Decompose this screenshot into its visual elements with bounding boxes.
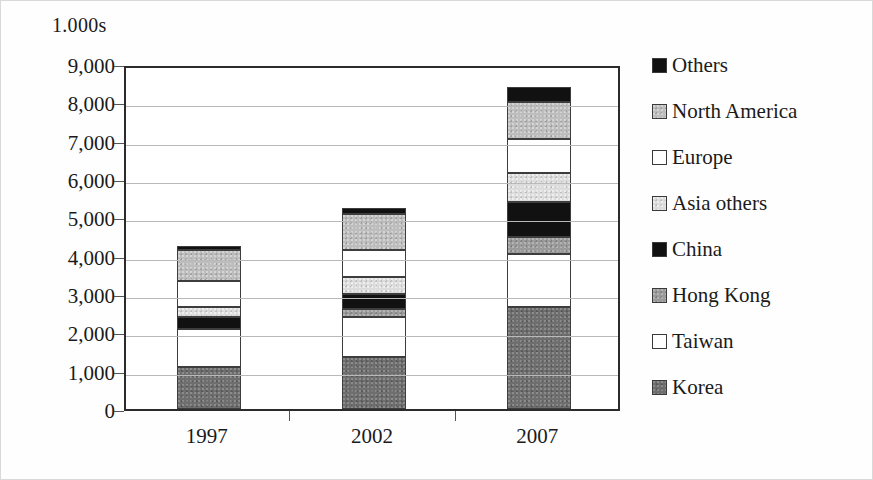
legend-swatch-icon — [652, 334, 667, 349]
x-axis-tick — [289, 411, 290, 421]
legend-label: Asia others — [672, 193, 767, 214]
bar-segment-korea — [177, 367, 241, 409]
y-axis-tick — [114, 411, 124, 412]
legend-swatch-icon — [652, 58, 667, 73]
legend-item-china[interactable]: China — [652, 226, 867, 272]
legend-label: Europe — [672, 147, 733, 168]
bar-group — [126, 68, 618, 409]
y-axis-tick-label: 4,000 — [68, 245, 115, 270]
legend-label: Korea — [672, 377, 723, 398]
bar-segment-north-america — [342, 214, 406, 250]
legend-swatch-icon — [652, 242, 667, 257]
bar-segment-europe — [177, 281, 241, 308]
y-axis-tick — [114, 104, 124, 105]
y-axis-tick-label: 8,000 — [68, 92, 115, 117]
bar-segment-hong-kong — [507, 237, 571, 254]
bar-2007 — [507, 64, 571, 409]
bar-segment-korea — [507, 307, 571, 409]
legend-item-others[interactable]: Others — [652, 42, 867, 88]
legend-label: Taiwan — [672, 331, 734, 352]
bar-segment-asia-others — [177, 307, 241, 317]
legend-swatch-icon — [652, 380, 667, 395]
y-axis-tick — [114, 219, 124, 220]
gridline — [126, 183, 618, 184]
y-axis: 9,0008,0007,0006,0005,0004,0003,0002,000… — [0, 0, 124, 480]
bar-segment-taiwan — [507, 254, 571, 308]
x-axis-tick-label: 2002 — [351, 424, 393, 449]
legend-label: Hong Kong — [672, 285, 771, 306]
y-axis-tick — [114, 373, 124, 374]
bar-segment-china — [342, 294, 406, 309]
plot-area — [124, 66, 620, 411]
y-axis-tick — [114, 296, 124, 297]
gridline — [126, 145, 618, 146]
y-axis-tick — [114, 334, 124, 335]
y-axis-tick-label: 3,000 — [68, 284, 115, 309]
x-axis-tick-label: 1997 — [186, 424, 228, 449]
legend-label: China — [672, 239, 722, 260]
gridline — [126, 298, 618, 299]
y-axis-tick-label: 9,000 — [68, 54, 115, 79]
y-axis-tick-label: 1,000 — [68, 360, 115, 385]
gridline — [126, 106, 618, 107]
bar-2002 — [342, 64, 406, 409]
gridline — [126, 260, 618, 261]
bar-segment-china — [177, 317, 241, 329]
y-axis-tick — [114, 258, 124, 259]
bar-segment-china — [507, 202, 571, 237]
x-axis-tick-label: 2007 — [516, 424, 558, 449]
bar-segment-korea — [342, 357, 406, 409]
legend-swatch-icon — [652, 104, 667, 119]
bar-segment-others — [177, 246, 241, 250]
y-axis-tick-label: 5,000 — [68, 207, 115, 232]
legend-label: North America — [672, 101, 797, 122]
gridline — [126, 336, 618, 337]
legend-item-hong-kong[interactable]: Hong Kong — [652, 272, 867, 318]
bar-1997 — [177, 64, 241, 409]
bar-segment-hong-kong — [342, 309, 406, 317]
x-axis-tick — [455, 411, 456, 421]
bar-segment-asia-others — [507, 173, 571, 202]
y-axis-tick-label: 6,000 — [68, 169, 115, 194]
legend-item-taiwan[interactable]: Taiwan — [652, 318, 867, 364]
y-axis-tick-label: 2,000 — [68, 322, 115, 347]
bar-segment-taiwan — [177, 329, 241, 367]
stacked-bar-chart: 1.000s 9,0008,0007,0006,0005,0004,0003,0… — [0, 0, 873, 480]
bar-segment-europe — [342, 250, 406, 277]
legend-item-korea[interactable]: Korea — [652, 364, 867, 410]
legend-swatch-icon — [652, 150, 667, 165]
y-axis-tick — [114, 66, 124, 67]
y-axis-tick-label: 7,000 — [68, 130, 115, 155]
bar-segment-others — [342, 208, 406, 214]
legend-item-north-america[interactable]: North America — [652, 88, 867, 134]
gridline — [126, 375, 618, 376]
bar-segment-north-america — [177, 250, 241, 281]
y-axis-tick — [114, 143, 124, 144]
legend-swatch-icon — [652, 196, 667, 211]
chart-legend: OthersNorth AmericaEuropeAsia othersChin… — [652, 42, 867, 410]
legend-item-asia-others[interactable]: Asia others — [652, 180, 867, 226]
legend-item-europe[interactable]: Europe — [652, 134, 867, 180]
y-axis-tick — [114, 181, 124, 182]
bar-segment-others — [507, 87, 571, 102]
bar-segment-north-america — [507, 102, 571, 138]
legend-swatch-icon — [652, 288, 667, 303]
legend-label: Others — [672, 55, 728, 76]
gridline — [126, 221, 618, 222]
bar-segment-asia-others — [342, 277, 406, 294]
